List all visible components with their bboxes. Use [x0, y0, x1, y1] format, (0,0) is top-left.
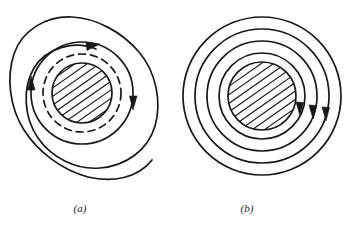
panel-b: (b) [183, 17, 341, 215]
figure-root: (a) [0, 0, 346, 227]
panel-a-label: (a) [74, 202, 87, 215]
hatched-core [35, 48, 129, 137]
arrow-ring-3-down [322, 107, 330, 121]
panel-a: (a) [10, 17, 158, 215]
core-hatching [35, 48, 129, 137]
physics-field-line-figure: (a) [0, 0, 346, 227]
panel-b-label: (b) [241, 202, 254, 215]
